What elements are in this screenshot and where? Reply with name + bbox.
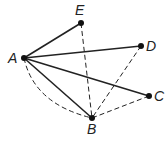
label-D: D [146, 38, 156, 54]
segment-DB [92, 46, 141, 118]
point-E [78, 20, 84, 26]
label-B: B [87, 121, 96, 137]
label-E: E [75, 2, 85, 18]
segment-AB [24, 58, 92, 118]
label-C: C [154, 88, 165, 104]
geometry-diagram: A E D C B [0, 0, 168, 143]
label-A: A [7, 50, 17, 66]
point-D [138, 43, 144, 49]
dashed-segments [24, 23, 149, 118]
points [21, 20, 152, 121]
segment-CB [92, 96, 149, 118]
segment-EB [81, 23, 92, 118]
point-C [146, 93, 152, 99]
segment-AC [24, 58, 149, 96]
point-A [21, 55, 27, 61]
